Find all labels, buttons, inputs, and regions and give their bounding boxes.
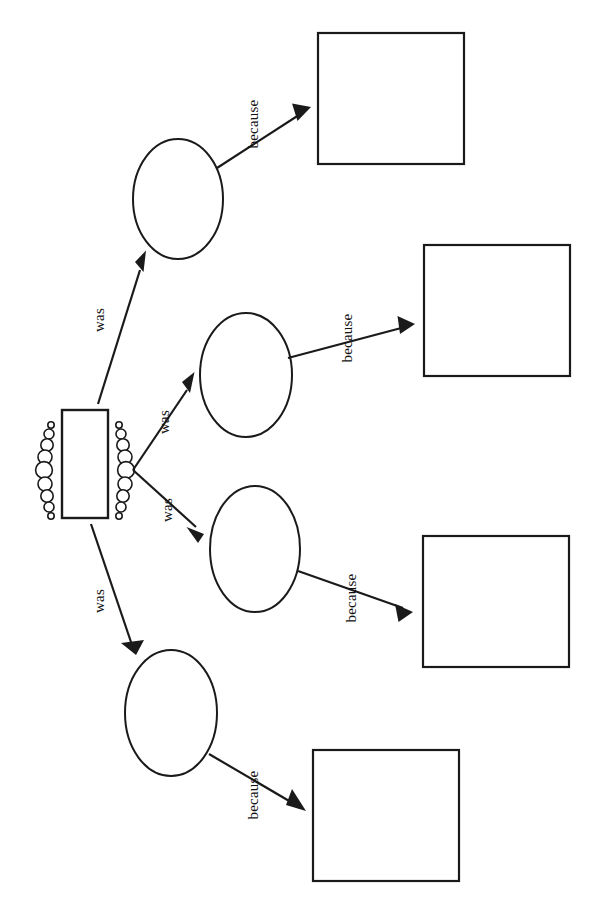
edge-because-3-label: because xyxy=(343,573,359,622)
edge-was-1-label: was xyxy=(91,308,107,332)
edge-because-3-arrowhead xyxy=(395,604,413,622)
root-node-box[interactable] xyxy=(62,410,108,518)
edge-because-4-arrowhead xyxy=(286,789,306,811)
edge-because-2-arrowhead xyxy=(398,316,416,334)
root-decoration-left xyxy=(36,422,55,519)
branch-3: was because xyxy=(133,470,569,667)
edge-because-4-label: because xyxy=(245,770,261,819)
edge-was-1-arrowhead xyxy=(135,251,146,273)
edge-was-3[interactable]: was xyxy=(133,470,204,543)
branch-4-leaf-node[interactable] xyxy=(313,750,459,881)
edge-was-3-arrowhead xyxy=(187,527,205,543)
diagram-canvas: was because was xyxy=(0,0,596,907)
edge-was-2-arrowhead xyxy=(182,372,195,393)
edge-was-1[interactable]: was xyxy=(91,251,146,405)
branch-2-leaf-node[interactable] xyxy=(424,245,570,376)
root-decoration-right xyxy=(116,422,135,519)
edge-was-4[interactable]: was xyxy=(91,524,144,655)
edge-was-4-label: was xyxy=(91,589,107,613)
edge-because-2-label: because xyxy=(339,313,355,362)
edge-was-2[interactable]: was xyxy=(133,372,195,470)
branch-4-middle-node[interactable] xyxy=(125,650,217,776)
edge-because-2[interactable]: because xyxy=(288,313,415,362)
edge-because-3[interactable]: because xyxy=(298,571,413,622)
edge-was-4-arrowhead xyxy=(121,640,144,655)
edge-was-3-label: was xyxy=(159,498,175,522)
branch-2-middle-node[interactable] xyxy=(200,313,292,437)
tree-diagram: was because was xyxy=(0,0,596,907)
branch-1-leaf-node[interactable] xyxy=(318,33,464,164)
branch-3-middle-node[interactable] xyxy=(210,486,300,612)
edge-was-2-label: was xyxy=(156,410,172,434)
branch-1-middle-node[interactable] xyxy=(133,139,223,259)
branch-2: was because xyxy=(133,245,570,470)
edge-because-1-label: because xyxy=(245,99,261,148)
branch-3-leaf-node[interactable] xyxy=(423,536,569,667)
edge-because-4[interactable]: because xyxy=(209,754,306,819)
root-node[interactable] xyxy=(36,410,135,519)
edge-because-1[interactable]: because xyxy=(217,99,311,168)
